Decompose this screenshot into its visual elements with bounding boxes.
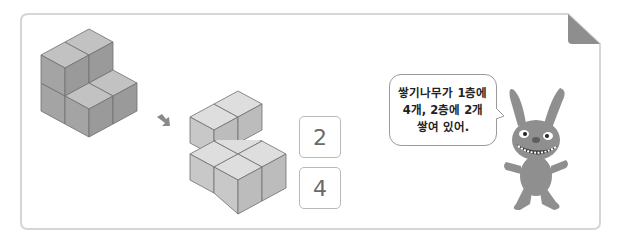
answer-box-second-floor[interactable]: 2 — [299, 116, 341, 158]
answer-box-first-floor[interactable]: 4 — [299, 167, 341, 209]
speech-bubble: 쌓기나무가 1층에 4개, 2층에 2개 쌓여 있어. — [389, 74, 497, 146]
speech-line-3: 쌓여 있어. — [417, 119, 469, 136]
answer-value: 4 — [313, 176, 327, 201]
arrow-down-right-icon — [155, 112, 173, 128]
original-cube-structure — [38, 28, 138, 140]
speech-line-2: 4개, 2층에 2개 — [403, 102, 483, 119]
answer-value: 2 — [313, 125, 327, 150]
speech-line-1: 쌓기나무가 1층에 — [398, 85, 487, 102]
bottom-layer-cubes — [188, 140, 288, 216]
rabbit-character-icon — [500, 84, 572, 214]
